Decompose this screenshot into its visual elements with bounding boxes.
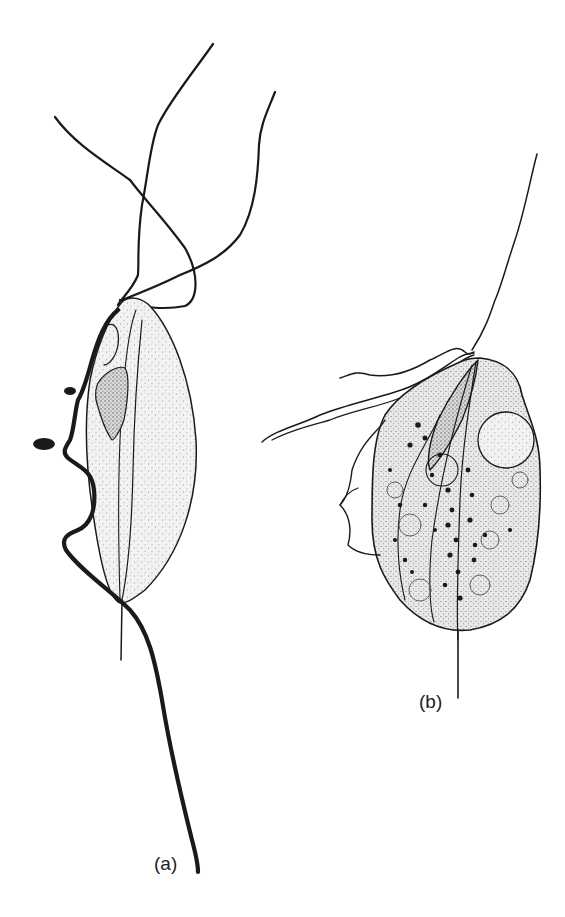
- anterior-flagellum-2: [55, 117, 196, 308]
- anterior-flagellum-b1: [472, 154, 537, 350]
- nucleus-b: [478, 412, 534, 468]
- anterior-flagellum-3: [122, 92, 275, 300]
- cell-body-a: [87, 298, 197, 603]
- organism-b: [262, 154, 540, 698]
- flagellum-knob-2: [33, 438, 55, 450]
- organism-a: [33, 44, 275, 872]
- flagellum-knob-1: [64, 387, 76, 395]
- flagellate-illustration: [0, 0, 565, 917]
- panel-label-a: (a): [154, 854, 177, 873]
- panel-label-b: (b): [419, 692, 442, 711]
